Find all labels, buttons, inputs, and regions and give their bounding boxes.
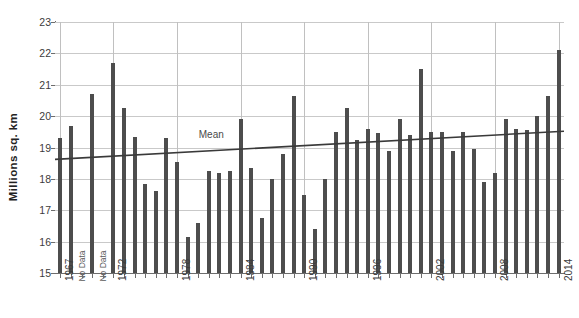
bar-1968 <box>69 126 73 273</box>
y-tick-label: 20 <box>27 110 51 122</box>
gridline-y-16 <box>55 242 564 243</box>
x-tick-label: 1978 <box>181 259 192 281</box>
bar-2010 <box>514 129 518 273</box>
x-tick-mark <box>463 273 464 278</box>
bar-2001 <box>419 69 423 273</box>
y-tick-label: 19 <box>27 142 51 154</box>
x-tick-label: 1990 <box>308 259 319 281</box>
bar-1996 <box>366 129 370 273</box>
y-tick-mark <box>51 53 55 54</box>
bar-2013 <box>546 96 550 273</box>
gridline-y-17 <box>55 210 564 211</box>
bar-2007 <box>482 182 486 273</box>
x-axis-tick-labels: 196719721978198419901996200220082014 <box>55 273 565 283</box>
no-data-label: No Data <box>97 204 108 271</box>
bar-1981 <box>207 171 211 273</box>
bar-1974 <box>133 137 137 273</box>
bar-2005 <box>461 132 465 273</box>
x-tick-mark <box>484 273 485 278</box>
x-tick-mark <box>325 273 326 278</box>
x-tick-mark <box>389 273 390 278</box>
x-tick-mark <box>177 273 178 278</box>
gridline-y-19 <box>55 148 564 149</box>
x-tick-mark <box>537 273 538 278</box>
bar-1992 <box>323 179 327 273</box>
gridline-y-23 <box>55 22 564 23</box>
bar-1997 <box>376 133 380 273</box>
chart-container: Millions sq. km 151617181920212223 No Da… <box>0 0 579 318</box>
x-tick-mark <box>516 273 517 278</box>
y-tick-mark <box>51 85 55 86</box>
x-tick-mark <box>219 273 220 278</box>
bar-2012 <box>535 116 539 273</box>
y-tick-label: 15 <box>27 267 51 279</box>
y-tick-label: 16 <box>27 236 51 248</box>
bar-2004 <box>451 151 455 273</box>
x-tick-mark <box>527 273 528 278</box>
x-tick-mark <box>82 273 83 278</box>
x-tick-mark <box>230 273 231 278</box>
x-tick-mark <box>92 273 93 278</box>
x-tick-mark <box>166 273 167 278</box>
x-tick-mark <box>410 273 411 278</box>
bar-1967 <box>58 138 62 273</box>
x-tick-label: 2008 <box>499 259 510 281</box>
y-tick-mark <box>51 22 55 23</box>
bar-2003 <box>440 132 444 273</box>
no-data-label: No Data <box>76 204 87 271</box>
y-tick-label: 22 <box>27 47 51 59</box>
x-tick-label: 2002 <box>435 259 446 281</box>
x-tick-mark <box>347 273 348 278</box>
x-tick-label: 1967 <box>64 259 75 281</box>
gridline-y-20 <box>55 116 564 117</box>
bar-2014 <box>557 50 561 273</box>
bar-1993 <box>334 132 338 273</box>
x-tick-mark <box>453 273 454 278</box>
bar-1999 <box>398 119 402 273</box>
mean-label: Mean <box>199 129 224 140</box>
x-tick-mark <box>145 273 146 278</box>
x-tick-mark <box>209 273 210 278</box>
x-tick-mark <box>357 273 358 278</box>
bar-2009 <box>504 119 508 273</box>
bar-1973 <box>122 108 126 273</box>
gridline-y-22 <box>55 53 564 54</box>
x-tick-mark <box>294 273 295 278</box>
bar-1988 <box>281 154 285 273</box>
x-tick-mark <box>304 273 305 278</box>
bar-1989 <box>292 96 296 273</box>
bar-1980 <box>196 223 200 273</box>
x-tick-mark <box>113 273 114 278</box>
y-tick-mark <box>51 179 55 180</box>
bar-1983 <box>228 171 232 273</box>
bar-1978 <box>175 162 179 273</box>
bar-1985 <box>249 168 253 273</box>
bar-2000 <box>408 135 412 273</box>
bar-1987 <box>270 179 274 273</box>
bar-1970 <box>90 94 94 273</box>
bar-1976 <box>154 191 158 273</box>
bar-1986 <box>260 218 264 273</box>
y-tick-label: 23 <box>27 16 51 28</box>
x-tick-mark <box>135 273 136 278</box>
bar-1977 <box>164 138 168 273</box>
x-tick-mark <box>241 273 242 278</box>
y-tick-mark <box>51 116 55 117</box>
bar-2011 <box>525 130 529 273</box>
y-axis-title: Millions sq. km <box>2 92 24 222</box>
gridline-y-21 <box>55 85 564 86</box>
bar-1990 <box>302 195 306 273</box>
x-tick-mark <box>262 273 263 278</box>
x-tick-mark <box>272 273 273 278</box>
y-tick-label: 21 <box>27 79 51 91</box>
bar-2008 <box>493 173 497 273</box>
x-tick-mark <box>60 273 61 278</box>
x-tick-mark <box>431 273 432 278</box>
y-tick-mark <box>51 210 55 211</box>
x-tick-mark <box>421 273 422 278</box>
bar-1984 <box>239 119 243 273</box>
bar-1994 <box>345 108 349 273</box>
bar-2002 <box>429 132 433 273</box>
x-tick-mark <box>474 273 475 278</box>
x-tick-mark <box>548 273 549 278</box>
